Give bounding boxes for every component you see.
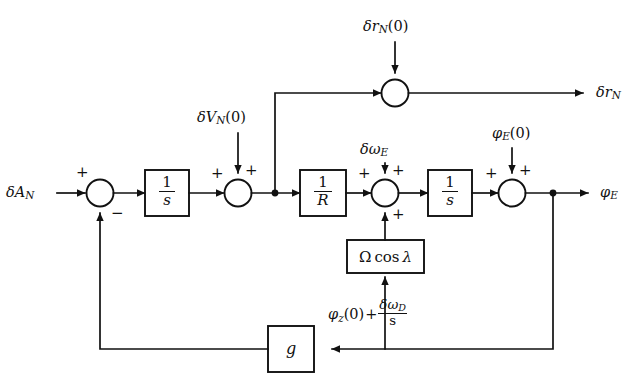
- feedback-frac-den: s: [378, 314, 407, 328]
- sign-summer-tilt-north: +: [519, 163, 532, 178]
- delta-v-n-0-symbol: δV: [197, 109, 216, 125]
- reciprocal-radius-denominator: R: [314, 192, 331, 208]
- label-delta-v-n-0: δVN(0): [197, 110, 246, 126]
- phi-e-0-subscript: E: [502, 130, 510, 142]
- block-integrator-1-label: 1 s: [145, 175, 189, 209]
- sign-summer-rate-west: +: [358, 166, 371, 181]
- block-gravity-gain-label: g: [268, 339, 314, 358]
- feedback-phi-symbol: φ: [328, 306, 338, 322]
- sign-summer-velocity-north: +: [245, 163, 258, 178]
- label-output-delta-r-n: δrN: [596, 85, 621, 101]
- reciprocal-radius-numerator: 1: [314, 175, 331, 192]
- delta-a-n-subscript: N: [25, 189, 34, 201]
- earth-rate-lambda: λ: [403, 248, 413, 266]
- label-delta-r-n-0: δrN(0): [363, 19, 408, 35]
- delta-r-n-0-symbol: δr: [363, 18, 379, 34]
- output-delta-r-n-symbol: δr: [596, 84, 612, 100]
- earth-rate-cos: cos: [374, 248, 399, 266]
- sign-summer-tilt-west: +: [485, 166, 498, 181]
- delta-a-n-symbol: δA: [6, 184, 25, 200]
- sign-summer-velocity-west: +: [211, 166, 224, 181]
- delta-v-n-0-arg: (0): [225, 109, 246, 125]
- integrator-2-denominator: s: [442, 192, 458, 208]
- summer-rate: [372, 180, 399, 207]
- block-integrator-2-label: 1 s: [428, 175, 472, 209]
- output-phi-e-subscript: E: [610, 189, 618, 201]
- label-phi-e-0: φE(0): [492, 126, 530, 142]
- delta-r-n-0-arg: (0): [388, 18, 409, 34]
- delta-r-n-0-subscript: N: [379, 23, 388, 35]
- integrator-1-denominator: s: [159, 192, 175, 208]
- feedback-frac-num: δωD: [378, 298, 407, 314]
- delta-omega-e-subscript: E: [381, 146, 389, 158]
- feedback-phi-arg: (0): [344, 306, 365, 322]
- sign-summer-rate-south: +: [392, 207, 405, 222]
- label-output-phi-e: φE: [600, 185, 618, 201]
- sign-summer-input-south: −: [111, 206, 124, 221]
- summer-velocity: [225, 180, 252, 207]
- feedback-plus-sign: +: [364, 306, 378, 322]
- summer-tilt: [499, 180, 526, 207]
- sign-summer-rate-north: +: [392, 163, 405, 178]
- summer-input: [87, 180, 114, 207]
- phi-e-0-symbol: φ: [492, 125, 502, 141]
- phi-e-0-arg: (0): [510, 125, 531, 141]
- earth-rate-omega: Ω: [359, 248, 371, 266]
- output-delta-r-n-subscript: N: [612, 89, 621, 101]
- block-diagram-canvas: 1 s 1 R 1 s Ω cos λ g δAN δVN(0) δrN(0) …: [0, 0, 638, 381]
- feedback-num-subscript: D: [398, 302, 406, 313]
- sign-summer-input-west: +: [76, 165, 89, 180]
- output-phi-e-symbol: φ: [600, 184, 610, 200]
- label-feedback-expression: φz(0)+δωDs: [328, 298, 407, 328]
- label-delta-a-n: δAN: [6, 185, 34, 201]
- label-delta-omega-e: δωE: [360, 142, 388, 158]
- delta-omega-e-symbol: δω: [360, 141, 381, 157]
- integrator-2-numerator: 1: [442, 175, 458, 192]
- block-earth-rate-label: Ω cos λ: [347, 248, 424, 266]
- delta-v-n-0-subscript: N: [216, 114, 225, 126]
- integrator-1-numerator: 1: [159, 175, 175, 192]
- block-reciprocal-radius-label: 1 R: [300, 175, 346, 209]
- wire-gravity-gain-to-summer1: [100, 213, 268, 349]
- summer-position: [382, 80, 409, 107]
- feedback-num-symbol: δω: [379, 297, 398, 312]
